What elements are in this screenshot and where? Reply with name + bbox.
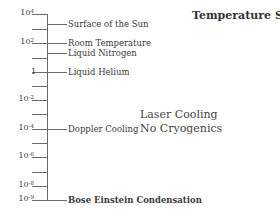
event-liquid-helium: Liquid Helium: [68, 67, 130, 77]
event-surface-of-the-sun: Surface of the Sun: [68, 19, 148, 29]
tick-label-1e-2: 10-2: [18, 94, 34, 104]
event-liquid-nitrogen: Liquid Nitrogen: [68, 48, 137, 58]
event-connector: [47, 43, 67, 44]
tick-label-1e4: 104: [20, 8, 34, 18]
tick: [32, 186, 47, 187]
tick-label-1e-9: 10-9: [18, 194, 34, 204]
tick: [32, 43, 47, 44]
event-connector: [47, 200, 67, 201]
tick-label-1e2: 102: [20, 37, 34, 47]
note-line-1: Laser Cooling: [140, 108, 222, 122]
tick: [32, 172, 47, 173]
tick: [32, 157, 47, 158]
tick: [32, 14, 47, 15]
tick-label-1: 1: [31, 67, 36, 77]
tick: [32, 129, 47, 130]
tick: [32, 58, 47, 59]
scale-axis: [47, 14, 48, 200]
tick: [32, 29, 47, 30]
tick: [32, 114, 47, 115]
tick: [32, 143, 47, 144]
event-bose-einstein-condensation: Bose Einstein Condensation: [68, 195, 202, 205]
event-connector: [47, 129, 67, 130]
tick-label-1e-8: 10-8: [18, 180, 34, 190]
event-connector: [47, 24, 67, 25]
event-room-temperature: Room Temperature: [68, 38, 151, 48]
diagram-title: Temperature Scale: [192, 9, 280, 22]
event-connector: [47, 72, 67, 73]
tick: [32, 100, 47, 101]
tick-label-1e-6: 10-6: [18, 151, 34, 161]
event-connector: [47, 53, 67, 54]
tick-label-1e-4: 10-4: [18, 123, 34, 133]
tick: [32, 200, 47, 201]
event-doppler-cooling: Doppler Cooling: [68, 124, 138, 134]
tick: [32, 86, 47, 87]
laser-cooling-note: Laser Cooling No Cryogenics: [140, 108, 222, 136]
note-line-2: No Cryogenics: [140, 122, 222, 136]
